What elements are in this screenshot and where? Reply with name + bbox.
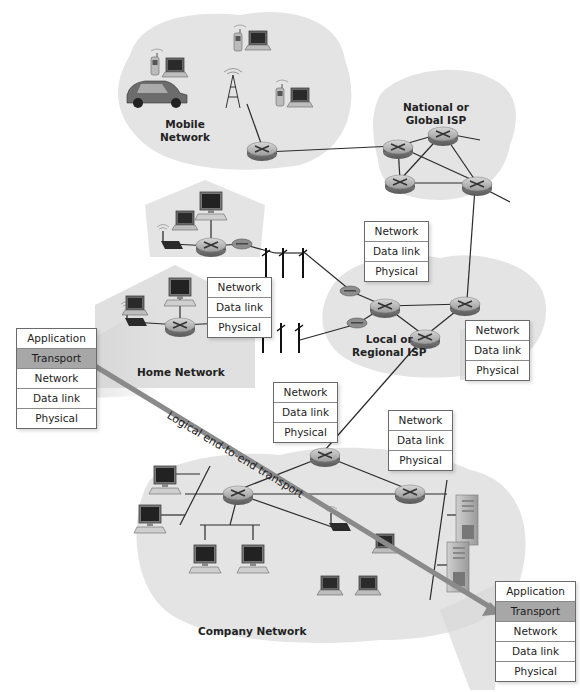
layer-data-link: Data link <box>389 430 452 450</box>
modem-icon <box>232 239 252 249</box>
layer-transport: Transport <box>496 601 575 621</box>
layer-network: Network <box>17 368 96 388</box>
desktop-icon <box>189 545 221 573</box>
laptop-icon <box>287 88 313 107</box>
router-protocol-stack-regional-right: Network Data link Physical <box>465 320 530 381</box>
laptop-icon <box>245 31 271 50</box>
server-icon <box>456 495 478 545</box>
layer-network: Network <box>466 321 529 340</box>
router-icon <box>428 127 458 146</box>
global-isp-label: National or Global ISP <box>403 101 469 127</box>
layer-network: Network <box>389 411 452 430</box>
laptop-icon <box>355 576 381 595</box>
desktop-icon <box>237 545 269 573</box>
layer-data-link: Data link <box>274 402 337 422</box>
router-icon <box>383 140 413 159</box>
mobile-network-label: Mobile Network <box>160 118 210 144</box>
company-network-label: Company Network <box>198 625 306 638</box>
router-icon <box>310 448 340 467</box>
desktop-icon <box>134 505 166 533</box>
router-icon <box>385 175 415 194</box>
layer-physical: Physical <box>208 317 271 337</box>
telephone-pole-icon <box>295 323 303 353</box>
regional-isp-label: Local or Regional ISP <box>352 333 427 359</box>
router-icon <box>223 486 253 505</box>
laptop-icon <box>317 576 343 595</box>
layer-physical: Physical <box>389 450 452 470</box>
desktop-icon <box>149 466 181 494</box>
layer-physical: Physical <box>274 422 337 442</box>
router-icon <box>395 485 425 504</box>
laptop-icon <box>172 211 198 230</box>
label-line: Regional ISP <box>352 346 427 359</box>
label-line: National or <box>403 101 469 114</box>
desktop-icon <box>164 278 196 306</box>
layer-physical: Physical <box>17 408 96 428</box>
home-network-label: Home Network <box>137 366 225 379</box>
router-icon <box>165 318 195 337</box>
layer-data-link: Data link <box>466 340 529 360</box>
label-line: Network <box>160 131 210 144</box>
router-icon <box>370 299 400 318</box>
layer-network: Network <box>208 278 271 297</box>
layer-data-link: Data link <box>17 388 96 408</box>
layer-data-link: Data link <box>208 297 271 317</box>
laptop-icon <box>122 296 148 315</box>
layer-physical: Physical <box>365 261 428 281</box>
modem-icon <box>340 286 360 296</box>
router-protocol-stack-regional-top: Network Data link Physical <box>364 221 429 282</box>
layer-data-link: Data link <box>496 641 575 661</box>
telephone-pole-icon <box>262 248 270 278</box>
router-icon <box>450 297 480 316</box>
layer-application: Application <box>496 582 575 601</box>
router-protocol-stack-company-top: Network Data link Physical <box>273 382 338 443</box>
desktop-icon <box>195 192 227 220</box>
host-protocol-stack-left: Application Transport Network Data link … <box>16 328 97 429</box>
layer-physical: Physical <box>466 360 529 380</box>
label-line: Global ISP <box>403 114 469 127</box>
layer-network: Network <box>365 222 428 241</box>
internet-layering-diagram: Mobile Network National or Global ISP Lo… <box>0 0 580 692</box>
laptop-icon <box>162 58 188 77</box>
label-line: Local or <box>352 333 427 346</box>
label-line: Mobile <box>160 118 210 131</box>
host-protocol-stack-right: Application Transport Network Data link … <box>495 581 576 682</box>
router-protocol-stack-company-right: Network Data link Physical <box>388 410 453 471</box>
router-icon <box>462 177 492 196</box>
layer-data-link: Data link <box>365 241 428 261</box>
layer-physical: Physical <box>496 661 575 681</box>
modem-icon <box>347 318 367 328</box>
router-icon <box>247 142 277 161</box>
layer-network: Network <box>496 621 575 641</box>
telephone-pole-icon <box>277 323 285 353</box>
router-icon <box>196 238 226 257</box>
layer-transport: Transport <box>17 348 96 368</box>
router-protocol-stack-home: Network Data link Physical <box>207 277 272 338</box>
layer-application: Application <box>17 329 96 348</box>
layer-network: Network <box>274 383 337 402</box>
